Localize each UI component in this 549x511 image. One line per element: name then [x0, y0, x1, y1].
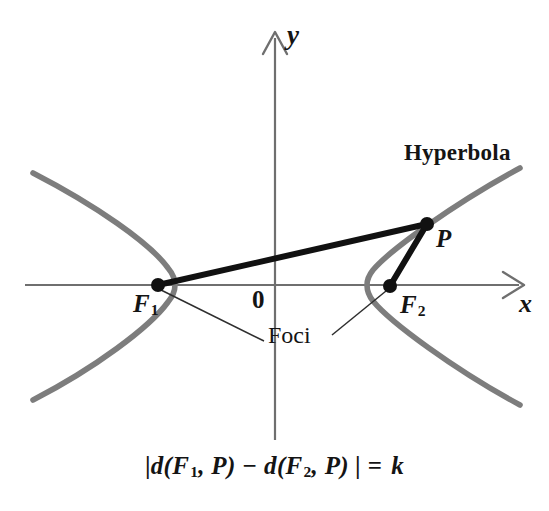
focus-2-letter: F	[400, 291, 417, 318]
foci-label: Foci	[268, 323, 311, 347]
point-p-marker	[420, 217, 434, 231]
x-axis-label: x	[519, 291, 532, 317]
focus-2-subscript: 2	[417, 302, 426, 319]
equation-equals: =	[368, 452, 383, 479]
equation-f2-subscript: 2	[303, 463, 312, 480]
focus-2-label: F2	[400, 292, 425, 319]
equation-d2: d(	[264, 452, 285, 479]
hyperbola-curve-label: Hyperbola	[404, 141, 511, 164]
equation-p1: , P)	[198, 452, 235, 479]
focus-1-label: F1	[133, 291, 158, 318]
equation-d1: d(	[151, 452, 172, 479]
equation-minus: −	[243, 452, 258, 479]
equation-f1: F	[172, 452, 189, 479]
y-axis-label: y	[287, 22, 299, 49]
focus-2-point	[383, 279, 397, 293]
foci-leader-left	[161, 290, 264, 341]
equation-f2: F	[286, 452, 303, 479]
hyperbola-figure: Hyperbola y x 0 P F1 F2 Foci |d(F1, P)−d…	[0, 0, 549, 511]
foci-leader-right	[332, 291, 386, 335]
focus-1-subscript: 1	[150, 301, 159, 318]
equation-bar-close: |	[355, 452, 361, 479]
hyperbola-curve-group	[33, 168, 520, 405]
focus-1-letter: F	[133, 290, 150, 317]
equation-p2: , P)	[312, 452, 349, 479]
focus-1-point	[151, 278, 165, 292]
point-p-label: P	[436, 226, 451, 251]
hyperbola-diagram	[0, 0, 549, 511]
equation-k: k	[391, 452, 404, 479]
equation-caption: |d(F1, P)−d(F2, P)|=k	[0, 452, 549, 481]
equation-f1-subscript: 1	[189, 463, 198, 480]
origin-label: 0	[252, 287, 265, 312]
